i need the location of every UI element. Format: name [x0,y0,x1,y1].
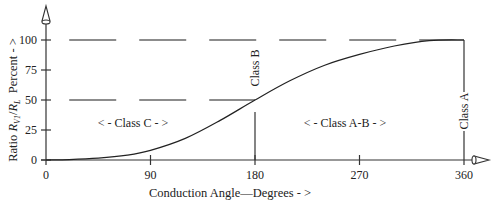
x-tick-label: 360 [455,168,473,182]
y-tick-label: 75 [25,63,37,77]
x-tick-label: 0 [43,168,49,182]
y-tick-label: 0 [31,153,37,167]
class-ab-label: < - Class A-B - > [304,116,387,130]
x-axis-ticks: 090180270360 [43,155,473,182]
chart-canvas: 0255075100 090180270360 < - Class C - > … [0,0,501,208]
y-tick-label: 25 [25,123,37,137]
class-b-label: Class B [248,49,262,86]
y-tick-label: 50 [25,93,37,107]
x-axis-title: Conduction Angle—Degrees - > [149,186,311,200]
x-tick-label: 90 [145,168,157,182]
y-axis-title: Ratio RV1/RL Percent - > [6,38,22,162]
class-c-label: < - Class C - > [98,116,169,130]
reference-dashed-lines [69,40,464,100]
x-tick-label: 270 [351,168,369,182]
x-tick-label: 180 [246,168,264,182]
x-axis-arrow-icon [472,156,489,164]
y-axis-arrow-icon [42,6,50,24]
class-a-label: Class A [457,92,471,129]
y-tick-label: 100 [19,33,37,47]
